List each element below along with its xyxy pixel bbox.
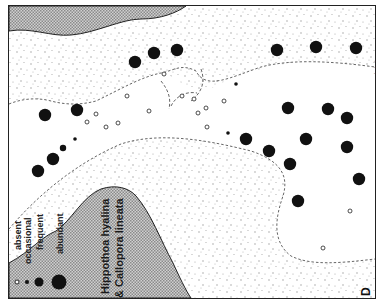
station-absent-icon — [192, 97, 196, 101]
station-absent-icon — [222, 99, 226, 103]
station-frequent-icon — [60, 145, 66, 151]
legend-label-occasional: occasional — [23, 217, 33, 264]
station-absent-icon — [180, 94, 184, 98]
legend-label-absent: absent — [13, 221, 23, 250]
station-abundant-icon — [129, 56, 141, 68]
station-abundant-icon — [263, 145, 275, 157]
station-occasional-icon — [226, 131, 230, 135]
station-occasional-icon — [234, 82, 238, 86]
station-absent-icon — [94, 112, 98, 116]
map-frame: absent occasional frequent abundant Hipp… — [8, 5, 376, 299]
legend-label-frequent: frequent — [35, 214, 45, 250]
legend-abundant-icon — [52, 275, 67, 290]
station-abundant-icon — [171, 44, 183, 56]
species-label-line2: & Callopora lineata — [113, 198, 125, 298]
station-abundant-icon — [282, 102, 294, 114]
station-abundant-icon — [71, 104, 83, 116]
station-absent-icon — [104, 125, 108, 129]
station-abundant-icon — [32, 165, 44, 177]
station-abundant-icon — [148, 47, 160, 59]
station-abundant-icon — [350, 42, 362, 54]
station-absent-icon — [204, 106, 208, 110]
station-abundant-icon — [322, 103, 334, 115]
station-absent-icon — [125, 94, 129, 98]
legend-label-abundant: abundant — [55, 214, 65, 255]
station-abundant-icon — [47, 153, 59, 165]
station-absent-icon — [147, 109, 151, 113]
station-abundant-icon — [271, 44, 283, 56]
side-caption: · · · — [371, 60, 378, 76]
station-abundant-icon — [341, 112, 353, 124]
legend-symbols — [11, 270, 83, 294]
legend-frequent-icon — [35, 278, 44, 287]
station-absent-icon — [116, 121, 120, 125]
station-abundant-icon — [310, 41, 322, 53]
station-absent-icon — [348, 209, 352, 213]
station-abundant-icon — [39, 109, 51, 121]
station-absent-icon — [196, 111, 200, 115]
station-abundant-icon — [292, 195, 304, 207]
station-abundant-icon — [300, 133, 312, 145]
station-abundant-icon — [240, 133, 252, 145]
station-absent-icon — [321, 246, 325, 250]
station-occasional-icon — [73, 137, 77, 141]
species-label-line1: Hippothoa hyalina — [99, 199, 111, 294]
legend-absent-icon — [15, 280, 19, 284]
legend: absent occasional frequent abundant — [11, 202, 83, 298]
station-absent-icon — [85, 120, 89, 124]
station-absent-icon — [162, 72, 166, 76]
station-abundant-icon — [341, 141, 353, 153]
station-abundant-icon — [284, 158, 296, 170]
legend-occasional-icon — [25, 280, 29, 284]
station-absent-icon — [205, 125, 209, 129]
station-abundant-icon — [353, 173, 365, 185]
panel-label: D — [359, 287, 373, 296]
